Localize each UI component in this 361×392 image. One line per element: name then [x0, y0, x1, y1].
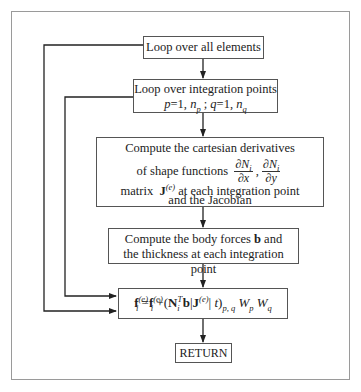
compute-derivatives-box: Compute the cartesian derivatives of sha… — [96, 137, 324, 207]
derivatives-line-2: of shape functions ∂Ni ∂x , ∂Ni ∂y and t… — [97, 156, 323, 184]
body-forces-line-1: Compute the body forces b and — [109, 232, 298, 247]
body-forces-line-2: the thickness at each integration point — [109, 247, 298, 277]
loop-integration-label: Loop over integration points — [134, 82, 277, 97]
loop-elements-box: Loop over all elements — [143, 36, 264, 59]
loop-elements-label: Loop over all elements — [146, 40, 261, 54]
loop-integration-range: p=1, np ; q=1, nq — [134, 97, 277, 112]
compute-body-forces-box: Compute the body forces b and the thickn… — [108, 228, 299, 264]
loop-integration-box: Loop over integration points p=1, np ; q… — [133, 79, 278, 113]
return-label: RETURN — [180, 346, 228, 360]
derivatives-line-3: matrix J(e) at each integration point — [97, 184, 323, 199]
derivatives-line-1: Compute the cartesian derivatives — [97, 141, 323, 156]
accumulate-formula: f(e)i =f(e)i +(NTi b|J(e)| t)p, q Wp Wq — [134, 295, 272, 310]
return-box: RETURN — [175, 343, 232, 363]
accumulate-formula-box: f(e)i =f(e)i +(NTi b|J(e)| t)p, q Wp Wq — [118, 288, 288, 319]
fraction-dNdx: ∂Ni ∂x — [234, 158, 252, 185]
fraction-dNdy: ∂Ni ∂y — [262, 158, 280, 185]
